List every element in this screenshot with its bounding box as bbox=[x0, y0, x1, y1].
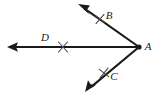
vertex-A: A bbox=[136, 40, 151, 52]
ray-AB-arrowhead bbox=[78, 4, 90, 14]
ray-AC: C bbox=[85, 47, 139, 92]
point-label-D: D bbox=[40, 31, 49, 43]
geometry-canvas: D B C A bbox=[0, 0, 160, 96]
ray-AC-arrowhead bbox=[85, 80, 96, 92]
point-label-B: B bbox=[106, 9, 113, 21]
point-label-C: C bbox=[110, 70, 118, 82]
point-label-A: A bbox=[144, 40, 152, 52]
ray-AB: B bbox=[78, 4, 139, 47]
vertex-A-dot bbox=[136, 44, 141, 49]
geometry-figure: D B C A bbox=[0, 0, 160, 96]
